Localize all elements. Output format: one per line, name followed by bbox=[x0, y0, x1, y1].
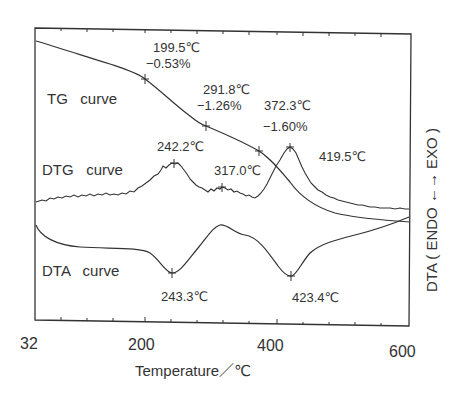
thermal-analysis-chart: TG curve DTG curve DTA curve 199.5℃ −0.5… bbox=[0, 0, 466, 400]
x-tick-400: 400 bbox=[257, 337, 284, 354]
dta-peak-1-label: 243.3℃ bbox=[161, 289, 208, 304]
x-tick-32: 32 bbox=[20, 335, 38, 352]
tg-annotation-1-temp: 199.5℃ bbox=[153, 40, 200, 55]
tg-annotation-2-temp: 291.8℃ bbox=[203, 82, 250, 97]
x-tick-600: 600 bbox=[389, 343, 416, 360]
dta-curve-label: DTA curve bbox=[42, 262, 119, 279]
tg-annotation-1-mass: −0.53% bbox=[146, 56, 191, 71]
dtg-peak-1-label: 242.2℃ bbox=[157, 139, 204, 154]
dta-markers bbox=[168, 268, 295, 281]
dtg-peak-2-label: 317.0℃ bbox=[214, 163, 261, 178]
x-tick-200: 200 bbox=[128, 336, 155, 353]
dtg-peak-3-label: 419.5℃ bbox=[319, 149, 366, 164]
tg-annotation-3-mass: −1.60% bbox=[263, 119, 308, 134]
tg-curve-label: TG curve bbox=[47, 90, 117, 107]
tg-annotation-3-temp: 372.3℃ bbox=[264, 98, 311, 113]
y-axis-label: DTA ( ENDO ←→ EXO ) bbox=[423, 128, 440, 292]
x-axis-label: Temperature／℃ bbox=[135, 362, 251, 379]
dtg-curve-label: DTG curve bbox=[42, 161, 123, 178]
tg-annotation-2-mass: −1.26% bbox=[197, 98, 242, 113]
dta-peak-2-label: 423.4℃ bbox=[292, 290, 339, 305]
